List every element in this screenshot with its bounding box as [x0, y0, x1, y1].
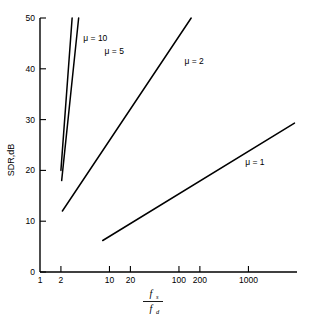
y-tick-label: 50 [26, 13, 36, 23]
y-axis-title-text: SDR,dB [6, 144, 16, 177]
x-axis-numerator: f [150, 288, 154, 299]
y-tick-label: 0 [30, 267, 35, 277]
y-axis-ticks: 01020304050 [26, 13, 46, 277]
series-annotations: μ = 10μ = 5μ = 2μ = 1 [83, 33, 265, 167]
y-axis-title: SDR,dB [6, 144, 16, 177]
x-tick-label: 2 [59, 275, 64, 285]
curve-mu1 [103, 123, 295, 240]
y-tick-label: 20 [26, 165, 36, 175]
x-axis-denominator-subscript: d [156, 308, 160, 315]
x-tick-label: 100 [172, 275, 186, 285]
series-label-mu10: μ = 10 [83, 33, 107, 43]
y-tick-label: 40 [26, 64, 36, 74]
x-tick-label: 10 [105, 275, 115, 285]
sdr-vs-frequency-ratio-chart: 01020304050 1210201002001000 μ = 10μ = 5… [0, 0, 310, 321]
x-tick-label: 200 [193, 275, 207, 285]
series-label-mu2: μ = 2 [184, 56, 204, 66]
chart-figure: 01020304050 1210201002001000 μ = 10μ = 5… [0, 0, 310, 321]
x-tick-label: 1000 [239, 275, 258, 285]
series-label-mu5: μ = 5 [105, 46, 125, 56]
series-label-mu1: μ = 1 [245, 157, 265, 167]
y-tick-label: 10 [26, 216, 36, 226]
x-axis-denominator: f [150, 303, 154, 314]
x-tick-label: 20 [126, 275, 136, 285]
x-axis-numerator-subscript: s [156, 293, 159, 300]
data-curves [61, 18, 295, 241]
curve-mu2 [62, 18, 191, 211]
x-axis-ticks: 1210201002001000 [38, 266, 259, 285]
y-tick-label: 30 [26, 115, 36, 125]
x-tick-label: 1 [38, 275, 43, 285]
x-axis-title: f s f d [143, 288, 163, 315]
